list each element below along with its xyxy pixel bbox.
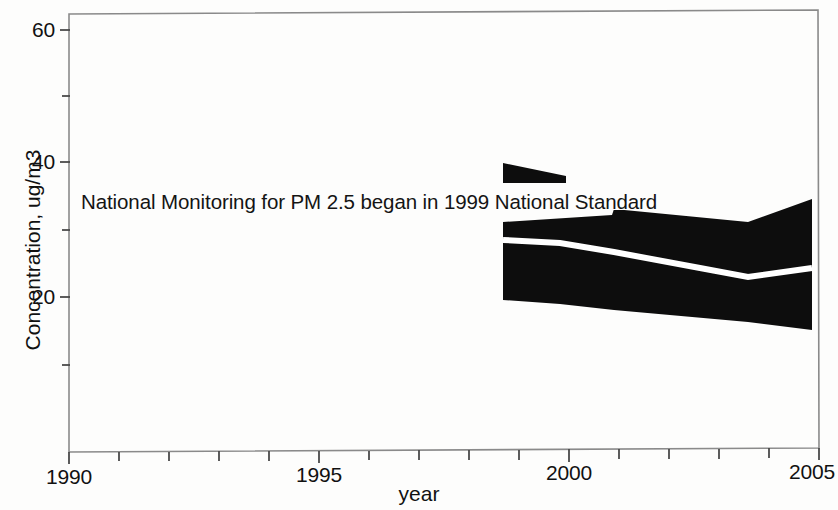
x-axis-title: year bbox=[399, 482, 440, 506]
band-upper-wedge bbox=[503, 163, 566, 183]
y-tick-label-60: 60 bbox=[0, 18, 55, 42]
x-tick-label-1995: 1995 bbox=[296, 463, 342, 487]
x-tick-label-2005: 2005 bbox=[789, 460, 835, 484]
band-envelope bbox=[503, 199, 812, 330]
plot-area bbox=[0, 0, 838, 510]
chart-figure: 60 40 20 1990 1995 2000 2005 year Concen… bbox=[0, 0, 838, 510]
y-axis-title: Concentration, ug/m3 bbox=[21, 130, 45, 370]
chart-annotation: National Monitoring for PM 2.5 began in … bbox=[81, 190, 657, 214]
x-tick-label-2000: 2000 bbox=[546, 461, 592, 485]
x-tick-label-1990: 1990 bbox=[46, 465, 92, 489]
